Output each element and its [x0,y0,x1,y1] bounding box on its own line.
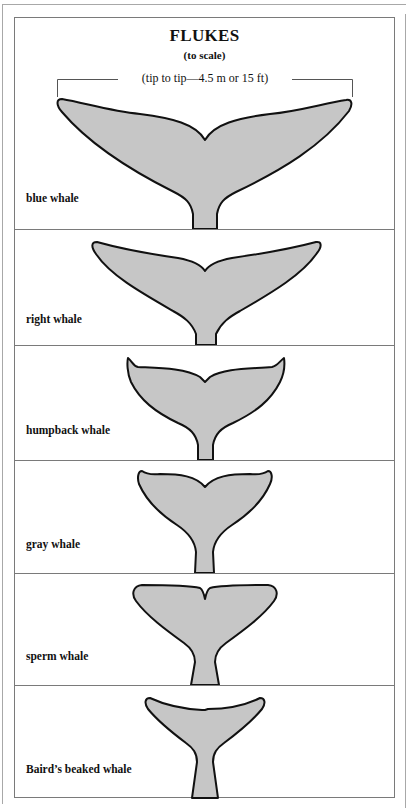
panel-divider [14,229,395,230]
panel-label-right-whale: right whale [26,313,82,325]
right-whale-fluke-icon [92,242,320,345]
panel-divider [14,685,395,686]
panel-label-bairds-beaked-whale: Baird’s beaked whale [26,763,132,775]
panel-divider [14,345,395,346]
blue-whale-fluke-icon [58,99,352,229]
panel-label-gray-whale: gray whale [26,538,80,550]
panel-divider [14,460,395,461]
bairds-beaked-whale-fluke-icon [146,698,265,798]
panel-label-humpback-whale: humpback whale [26,424,110,436]
flukes-illustration [0,0,411,808]
humpback-whale-fluke-icon [127,358,284,460]
sperm-whale-fluke-icon [133,585,276,685]
panel-divider [14,573,395,574]
panel-label-blue-whale: blue whale [26,192,79,204]
measurement-label: (tip to tip—4.5 m or 15 ft) [118,71,292,86]
panel-label-sperm-whale: sperm whale [26,650,88,662]
gray-whale-fluke-icon [138,471,272,573]
